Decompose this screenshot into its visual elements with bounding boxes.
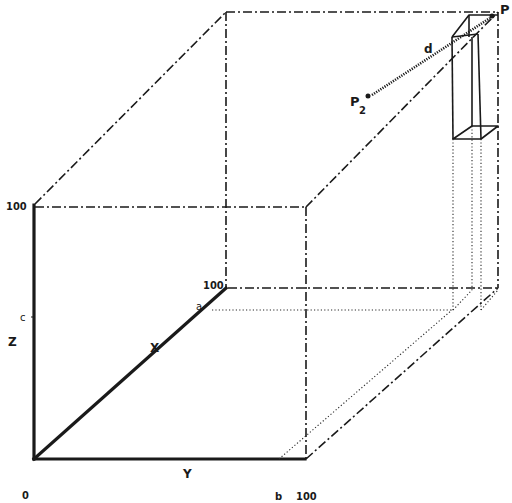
- x-marker-label: a: [196, 301, 202, 312]
- cube-edge-top-right: [306, 12, 498, 207]
- origin-label: 0: [22, 489, 29, 502]
- projection-b-line: [279, 310, 452, 459]
- y-max-label: 100: [296, 490, 317, 503]
- coordinate-cube-diagram: P P 2 d 100 c Z 100 a X Y b 100 0: [0, 0, 512, 503]
- x-axis-label: X: [150, 341, 160, 355]
- projection-lines: [212, 126, 498, 459]
- z-marker-label: c: [20, 312, 26, 323]
- y-marker-label: b: [275, 491, 282, 502]
- p1-label: P: [500, 2, 510, 17]
- cube-edge-top-left: [35, 12, 226, 204]
- z-max-label: 100: [6, 200, 27, 213]
- x-axis: [34, 288, 226, 459]
- distance-label: d: [424, 42, 433, 56]
- axes: [31, 205, 305, 459]
- point-p2: [366, 94, 371, 99]
- projection-box-diag-left: [453, 290, 472, 310]
- z-axis-label: Z: [8, 335, 17, 349]
- box-front-left-vertical: [452, 37, 453, 139]
- bounding-box: [452, 15, 498, 139]
- cube-edges: [35, 12, 498, 459]
- cube-edge-bottom-right: [306, 288, 498, 459]
- box-bottom-face: [453, 126, 498, 139]
- point-p1: [490, 14, 495, 19]
- x-max-label: 100: [203, 279, 224, 292]
- p2-subscript: 2: [359, 105, 366, 116]
- y-axis-label: Y: [182, 467, 192, 481]
- box-front-right-vertical: [478, 34, 481, 139]
